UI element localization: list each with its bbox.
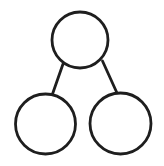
edge-root-to-left-child: [53, 64, 64, 94]
node-right-child: [90, 93, 151, 154]
node-root: [52, 12, 108, 68]
tree-diagram: [0, 0, 164, 166]
nodes-layer: [16, 12, 152, 154]
node-left-child: [16, 94, 76, 154]
edge-root-to-right-child: [103, 61, 118, 93]
tree-diagram-svg: [0, 0, 164, 166]
